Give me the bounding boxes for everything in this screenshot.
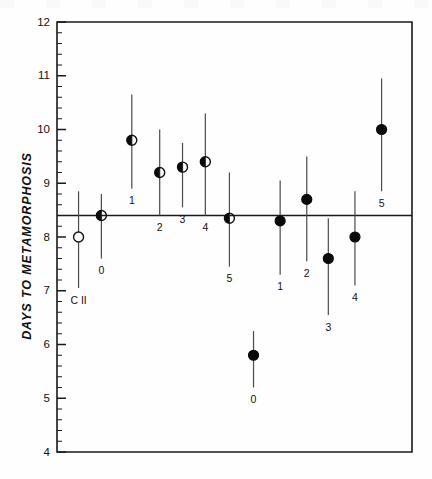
marker-solid-circle [249, 350, 259, 360]
data-point-label: 0 [98, 264, 104, 276]
data-point: 3 [323, 218, 333, 333]
data-point: 1 [127, 95, 137, 207]
data-point-label: 3 [180, 213, 186, 225]
data-point-label: 1 [129, 194, 135, 206]
data-point: 0 [249, 331, 259, 405]
figure-root: 456789101112 C II012345012345 DAYS TO ME… [0, 0, 432, 479]
data-point: 0 [96, 194, 106, 276]
marker-solid-circle [302, 194, 312, 204]
data-point-label: 5 [227, 272, 233, 284]
marker-solid-circle [377, 125, 387, 135]
y-tick-label: 12 [37, 16, 50, 28]
y-axis-title-text: DAYS TO METAMORPHOSIS [20, 152, 34, 340]
data-point: 2 [155, 130, 165, 234]
y-tick-label: 7 [44, 284, 50, 296]
data-point-label: 4 [202, 221, 208, 233]
marker-solid-circle [275, 216, 285, 226]
data-point: 2 [302, 156, 312, 279]
data-point-label: 1 [277, 280, 283, 292]
data-point: 4 [350, 191, 360, 303]
data-point-label: 2 [304, 267, 310, 279]
y-tick-label: 9 [44, 177, 50, 189]
marker-solid-circle [323, 254, 333, 264]
data-points-group: C II012345012345 [70, 78, 386, 405]
y-tick-label: 8 [44, 231, 50, 243]
data-point: 1 [275, 181, 285, 293]
data-point-label: 5 [379, 197, 385, 209]
data-point-label: 0 [251, 393, 257, 405]
y-axis-title: DAYS TO METAMORPHOSIS [20, 152, 34, 340]
chart-canvas: 456789101112 C II012345012345 DAYS TO ME… [0, 0, 432, 479]
y-tick-label: 5 [44, 392, 50, 404]
data-point: 3 [178, 143, 188, 225]
data-point-label: 3 [325, 321, 331, 333]
data-point: 5 [377, 78, 387, 209]
data-point: 5 [224, 173, 234, 285]
y-tick-label: 4 [44, 446, 51, 458]
data-point-label: 2 [157, 221, 163, 233]
marker-open-circle [74, 232, 84, 242]
data-point-label: C II [70, 294, 86, 306]
y-tick-label: 11 [38, 69, 50, 81]
y-axis-tick-labels: 456789101112 [37, 16, 50, 458]
y-tick-label: 10 [37, 123, 50, 135]
y-tick-label: 6 [44, 338, 50, 350]
data-point-label: 4 [352, 291, 358, 303]
data-point: C II [70, 191, 86, 306]
y-axis-ticks [57, 22, 66, 452]
marker-solid-circle [350, 232, 360, 242]
